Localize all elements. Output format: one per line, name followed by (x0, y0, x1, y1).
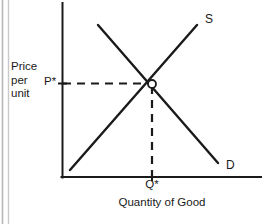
figure-canvas: Price per unit P* Q* Quantity of Good S … (0, 0, 262, 224)
supply-curve (70, 25, 197, 170)
x-axis-label: Quantity of Good (62, 196, 262, 210)
price-tick-label: P* (44, 75, 56, 89)
quantity-tick-label: Q* (132, 178, 172, 192)
demand-curve-label: D (226, 158, 235, 172)
supply-curve-label: S (205, 12, 213, 26)
supply-demand-chart (0, 0, 262, 224)
demand-curve (98, 25, 218, 163)
y-axis-label: Price per unit (11, 60, 37, 101)
equilibrium-point-marker (148, 80, 156, 88)
